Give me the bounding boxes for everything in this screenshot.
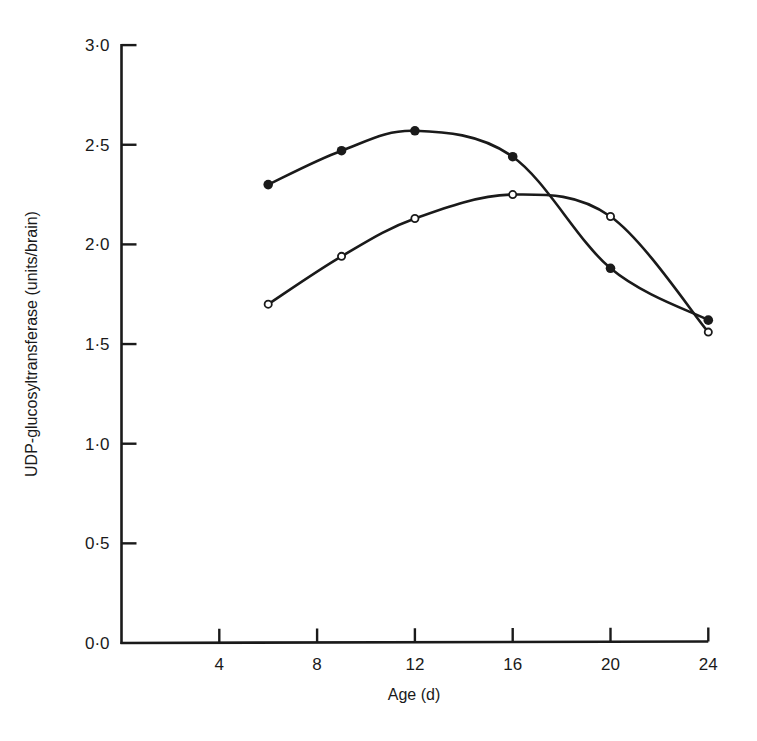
x-tick-label: 24: [699, 655, 718, 674]
x-tick-label: 20: [601, 655, 620, 674]
y-axis-ticks: 0·00·51·01·52·02·53·0: [85, 36, 137, 653]
x-tick-label: 16: [503, 655, 522, 674]
filled-circle-marker: [337, 146, 347, 156]
series-open: [265, 191, 712, 336]
y-tick-label: 3·0: [85, 36, 110, 55]
y-tick-label: 2·5: [85, 136, 110, 155]
series-line: [268, 194, 708, 332]
y-tick-label: 1·5: [85, 335, 110, 354]
open-circle-marker: [411, 215, 418, 222]
y-tick-label: 1·0: [85, 435, 110, 454]
x-tick-label: 8: [312, 655, 321, 674]
x-axis-ticks: 4812162024: [215, 628, 718, 675]
x-axis-title: Age (d): [388, 686, 440, 703]
y-tick-label: 0·5: [85, 534, 110, 553]
y-tick-label: 2·0: [85, 235, 110, 254]
filled-circle-marker: [410, 126, 420, 136]
open-circle-marker: [705, 328, 712, 335]
series-filled: [263, 126, 713, 325]
data-series: [263, 126, 713, 336]
open-circle-marker: [338, 253, 345, 260]
filled-circle-marker: [508, 152, 518, 162]
filled-circle-marker: [606, 264, 616, 274]
filled-circle-marker: [263, 180, 273, 190]
x-tick-label: 12: [405, 655, 424, 674]
series-line: [268, 131, 708, 320]
open-circle-marker: [265, 301, 272, 308]
x-tick-label: 4: [215, 655, 224, 674]
y-tick-label: 0·0: [85, 634, 110, 653]
filled-circle-marker: [704, 315, 714, 325]
open-circle-marker: [607, 213, 614, 220]
line-chart: 0·00·51·01·52·02·53·0 4812162024 Age (d)…: [0, 0, 757, 741]
open-circle-marker: [509, 191, 516, 198]
y-axis-title: UDP-glucosyltransferase (units/brain): [23, 211, 40, 477]
